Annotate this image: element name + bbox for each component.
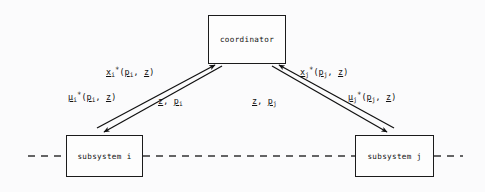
- diagram-canvas: coordinator subsystem i subsystem j xi*(…: [0, 0, 485, 192]
- edge-label-z-p-i: z, pi: [158, 97, 183, 107]
- edge-label-mu-i-comma: ,: [95, 92, 105, 102]
- edge-label-z-p-j-comma: ,: [257, 96, 267, 106]
- node-subsystem-i[interactable]: subsystem i: [66, 135, 143, 177]
- edge-label-z-p-j: z, pj: [252, 97, 277, 107]
- edge-label-z-p-i-comma: ,: [163, 96, 173, 106]
- edge-label-mu-i: μi*(pi, z): [68, 91, 116, 103]
- edge-label-x-j-comma: ,: [327, 67, 337, 77]
- edge-label-z-p-i-arg2-sub: i: [179, 100, 183, 107]
- node-coordinator[interactable]: coordinator: [208, 15, 286, 64]
- edge-label-mu-j-comma: ,: [375, 92, 385, 102]
- edge-label-x-i: xi*(pi, z): [106, 66, 154, 78]
- edge-label-mu-j-close: ): [391, 92, 396, 102]
- node-subsystem-j-label: subsystem j: [367, 152, 421, 161]
- edge-label-z-p-j-arg2-sub: j: [273, 100, 277, 107]
- edge-label-x-j: xj*(pj, z): [300, 66, 348, 78]
- edge-label-mu-i-close: ): [111, 92, 116, 102]
- node-subsystem-i-label: subsystem i: [77, 152, 131, 161]
- edge-label-x-i-close: ): [149, 67, 154, 77]
- edge-label-x-i-comma: ,: [133, 67, 143, 77]
- edge-label-mu-j: μj*(pj, z): [348, 91, 396, 103]
- node-coordinator-label: coordinator: [220, 35, 274, 44]
- node-subsystem-j[interactable]: subsystem j: [355, 135, 434, 177]
- edge-label-x-j-close: ): [343, 67, 348, 77]
